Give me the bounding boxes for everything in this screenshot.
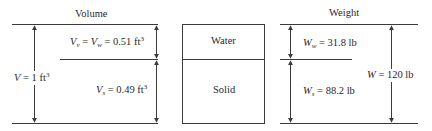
phase-diagram-lines [0,0,432,131]
solid-weight-label: Ws = 88.2 lb [303,86,355,98]
solid-phase-label: Solid [213,85,235,96]
total-volume-label: V = 1 ft3 [14,71,49,85]
water-weight-label: Ww = 31.8 lb [303,38,357,50]
volume-title: Volume [75,9,107,20]
water-phase-label: Water [211,36,236,47]
solid-volume-label: Vs = 0.49 ft3 [96,84,147,97]
total-weight-label: W = 120 lb [367,69,413,82]
void-volume-label: Vv = Vw = 0.51 ft3 [70,36,144,49]
weight-title: Weight [329,8,359,19]
